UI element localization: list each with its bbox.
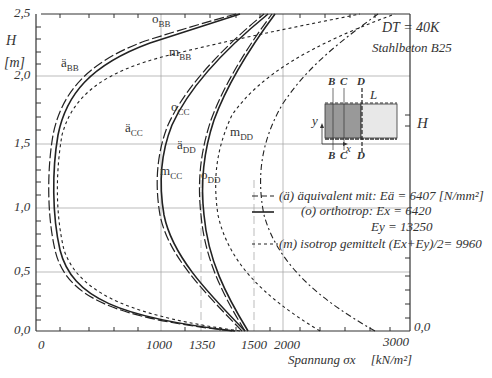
legend-entry-aequivalent: (ä) äquivalent mit: Eä = 6407 [N/mm²]	[279, 188, 484, 204]
x-tick-1000: 1000	[146, 337, 172, 353]
curve-label-m-cc: mCC	[160, 163, 182, 181]
right-y-tick-0-0: 0,0	[414, 319, 430, 335]
x-tick-1350: 1350	[189, 337, 215, 353]
x-axis-title-text: Spannung σx	[288, 352, 355, 367]
y-tick-2-5: 2,5	[14, 5, 30, 21]
curve-label-o-dd: oDD	[201, 167, 221, 185]
legend-entry-isotrop: (m) isotrop gemittelt (Ex+Ey)/2= 9960	[279, 236, 482, 252]
inset-label-h: H	[417, 115, 428, 132]
load-case-label: DT = 40K	[382, 20, 439, 36]
y-axis-title: H	[6, 33, 16, 49]
y-tick-0-5: 0,5	[14, 263, 30, 279]
series-cc	[157, 14, 395, 331]
inset-label-c-top: C	[340, 75, 347, 87]
curve-label-o-bb: oBB	[152, 11, 171, 29]
y-tick-2-0: 2,0	[14, 67, 30, 83]
y-tick-1-0: 1,0	[14, 199, 30, 215]
curve-label-m-dd: mDD	[230, 124, 253, 142]
inset-label-d-bottom: D	[357, 149, 365, 161]
x-axis-title: Spannung σx [kN/m²]	[288, 352, 412, 368]
legend-entry-orthotrop-ey: Ey = 13250	[371, 219, 432, 235]
curve-label-m-bb: mBB	[169, 44, 191, 62]
inset-label-c-bottom: C	[340, 149, 347, 161]
y-tick-0-0: 0,0	[14, 322, 30, 338]
x-tick-1500: 1500	[241, 337, 267, 353]
series-dd	[199, 14, 378, 331]
legend-entry-orthotrop: (o) orthotrop: Ex = 6420	[301, 203, 431, 219]
x-axis-unit: [kN/m²]	[371, 352, 412, 367]
inset-label-l: L	[370, 87, 377, 103]
curve-m-dd	[261, 14, 378, 331]
inset-label-y: y	[312, 113, 318, 129]
x-tick-3000: 3000	[383, 334, 409, 350]
curve-label-o-cc: oCC	[171, 99, 190, 117]
curve-label-a-bb: äBB	[61, 55, 79, 73]
material-label: Stahlbeton B25	[372, 40, 452, 56]
curve-label-a-dd: äDD	[177, 137, 196, 155]
x-tick-2000: 2000	[274, 337, 300, 353]
x-tick-0: 0	[38, 337, 45, 353]
inset-label-b-bottom: B	[328, 149, 335, 161]
y-tick-1-5: 1,5	[14, 135, 30, 151]
inset-label-d-top: D	[357, 75, 365, 87]
curve-label-a-cc: äCC	[125, 120, 143, 138]
inset-label-b-top: B	[328, 75, 335, 87]
